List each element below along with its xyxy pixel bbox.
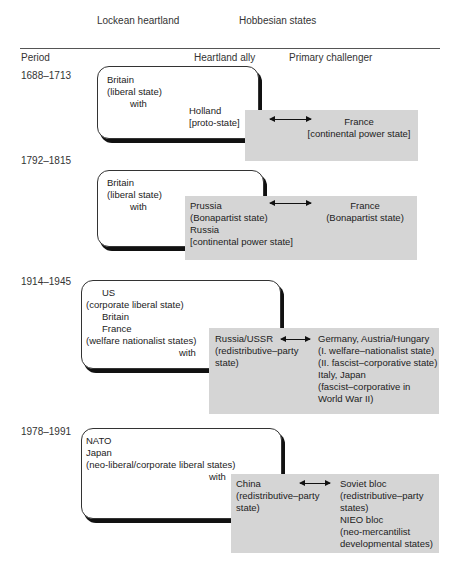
heartland-state-2: Britain bbox=[86, 311, 196, 323]
ally-state-2: Russia bbox=[190, 224, 293, 236]
double-arrow-icon bbox=[300, 483, 330, 484]
header-lockean-heartland: Lockean heartland bbox=[97, 15, 179, 27]
double-arrow-icon bbox=[281, 339, 310, 340]
challenger-state-2: Italy, Japan bbox=[318, 369, 437, 381]
heartland-text: US (corporate liberal state) Britain Fra… bbox=[86, 287, 196, 359]
challenger-text: France (Bonapartist state) bbox=[322, 200, 408, 224]
heartland-type: (liberal state) bbox=[107, 189, 162, 201]
challenger-type-2: (II. fascist–corporative state) bbox=[318, 357, 437, 369]
ally-state: China bbox=[236, 478, 319, 490]
with-label: with bbox=[86, 347, 196, 359]
challenger-type-3-cont: World War II) bbox=[318, 393, 437, 405]
header-period: Period bbox=[21, 52, 50, 64]
heartland-type: (corporate liberal state) bbox=[86, 299, 196, 311]
challenger-state-2: NIEO bloc bbox=[340, 514, 433, 526]
ally-text: Prussia (Bonapartist state) Russia [cont… bbox=[190, 200, 293, 248]
challenger-text: Soviet bloc (redistributive–party states… bbox=[340, 478, 433, 550]
challenger-state: Germany, Austria/Hungary bbox=[318, 333, 437, 345]
ally-type-cont: state) bbox=[236, 502, 319, 514]
double-arrow-icon bbox=[270, 203, 311, 204]
period-label: 1688–1713 bbox=[21, 70, 71, 82]
heartland-state: NATO bbox=[86, 435, 235, 447]
challenger-type-2: (neo-mercantilist bbox=[340, 526, 433, 538]
heartland-type: (liberal state) bbox=[107, 86, 162, 98]
ally-state: Holland bbox=[189, 105, 240, 117]
period-label: 1792–1815 bbox=[21, 155, 71, 167]
heartland-state: US bbox=[86, 287, 196, 299]
header-hobbesian-states: Hobbesian states bbox=[239, 15, 316, 27]
challenger-state: Soviet bloc bbox=[340, 478, 433, 490]
challenger-state: France bbox=[322, 200, 408, 212]
header-rule bbox=[20, 48, 440, 49]
challenger-type-2-cont: developmental states) bbox=[340, 538, 433, 550]
challenger-text: Germany, Austria/Hungary (I. welfare–nat… bbox=[318, 333, 437, 405]
ally-type-cont: state) bbox=[215, 357, 298, 369]
ally-type: (redistributive–party bbox=[236, 490, 319, 502]
challenger-type-cont: states) bbox=[340, 502, 433, 514]
challenger-type: [continental power state] bbox=[300, 128, 418, 140]
period-label: 1978–1991 bbox=[21, 426, 71, 438]
challenger-type: (redistributive–party bbox=[340, 490, 433, 502]
heartland-text: Britain (liberal state) with bbox=[107, 177, 162, 213]
ally-type: (redistributive–party bbox=[215, 345, 298, 357]
period-label: 1914–1945 bbox=[21, 276, 71, 288]
heartland-text: Britain (liberal state) with bbox=[107, 74, 162, 110]
challenger-type: (I. welfare–nationalist state) bbox=[318, 345, 437, 357]
heartland-state-3: France bbox=[86, 323, 196, 335]
with-label: with bbox=[107, 98, 162, 110]
heartland-text: NATO Japan (neo-liberal/corporate libera… bbox=[86, 435, 235, 483]
challenger-type: (Bonapartist state) bbox=[322, 212, 408, 224]
with-label: with bbox=[86, 471, 235, 483]
challenger-type-3: (fascist–corporative in bbox=[318, 381, 437, 393]
ally-type: [proto-state] bbox=[189, 117, 240, 129]
header-primary-challenger: Primary challenger bbox=[289, 52, 372, 64]
ally-type-2: [continental power state] bbox=[190, 236, 293, 248]
with-label: with bbox=[107, 201, 162, 213]
challenger-text: France [continental power state] bbox=[300, 116, 418, 140]
heartland-state: Britain bbox=[107, 177, 162, 189]
heartland-state: Britain bbox=[107, 74, 162, 86]
ally-type: (Bonapartist state) bbox=[190, 212, 293, 224]
ally-text: Holland [proto-state] bbox=[189, 105, 240, 129]
heartland-type: (neo-liberal/corporate liberal states) bbox=[86, 459, 235, 471]
challenger-state: France bbox=[300, 116, 418, 128]
heartland-type-2: (welfare nationalist states) bbox=[86, 335, 196, 347]
ally-state: Prussia bbox=[190, 200, 293, 212]
heartland-state-2: Japan bbox=[86, 447, 235, 459]
header-heartland-ally: Heartland ally bbox=[194, 52, 255, 64]
